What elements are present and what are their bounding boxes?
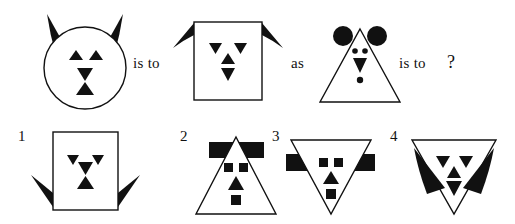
prompt-figure-a: [30, 8, 140, 118]
option-2[interactable]: [186, 128, 286, 220]
mouth-square-icon: [326, 189, 336, 199]
connector-is-to-1: is to: [133, 55, 160, 72]
mouth-square-icon: [231, 195, 241, 205]
eye-right-square-icon: [334, 158, 343, 167]
eye-left-square-icon: [224, 163, 233, 172]
connector-is-to-2: is to: [399, 55, 426, 72]
eye-right-dot-icon: [362, 48, 368, 54]
ear-left-horn-icon: [31, 175, 53, 207]
eye-right-square-icon: [239, 163, 248, 172]
ear-left-circle-icon: [333, 26, 353, 46]
ear-right-circle-icon: [367, 26, 387, 46]
prompt-figure-b: [168, 14, 288, 114]
option-4-number: 4: [390, 128, 398, 145]
ear-right-horn-icon: [262, 23, 283, 48]
ear-left-horn-icon: [173, 23, 194, 48]
visual-analogy-puzzle: is to as: [0, 0, 515, 224]
option-1[interactable]: [23, 125, 148, 220]
answer-question-mark: ?: [447, 52, 455, 73]
eye-left-dot-icon: [352, 48, 358, 54]
eye-left-square-icon: [319, 158, 328, 167]
mouth-dot-icon: [357, 77, 363, 83]
connector-as: as: [291, 55, 304, 72]
prompt-figure-c: [316, 16, 406, 108]
option-3[interactable]: [278, 128, 383, 220]
ear-right-horn-icon: [118, 175, 140, 207]
option-4[interactable]: [398, 128, 510, 220]
